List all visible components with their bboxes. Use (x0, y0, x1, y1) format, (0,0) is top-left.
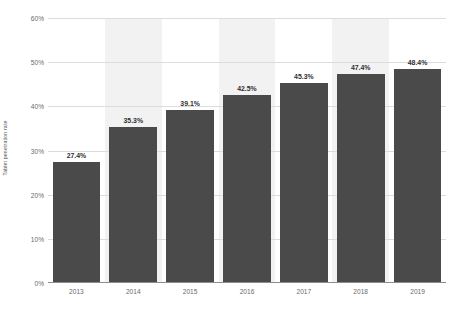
x-axis-tick-label: 2018 (332, 288, 389, 295)
bar[interactable] (109, 127, 157, 283)
bar-group: 48.4% (389, 18, 446, 283)
y-axis-tick-label: 20% (18, 191, 44, 198)
bar-value-label: 47.4% (332, 64, 389, 71)
bar-value-label: 42.5% (219, 85, 276, 92)
y-axis-tick-label: 10% (18, 235, 44, 242)
bar-group: 35.3% (105, 18, 162, 283)
x-axis-tick-label: 2014 (105, 288, 162, 295)
bar-group: 27.4% (48, 18, 105, 283)
x-axis-tick-label: 2019 (389, 288, 446, 295)
y-axis-tick-label: 40% (18, 103, 44, 110)
x-axis-line (48, 282, 446, 283)
bar[interactable] (280, 83, 328, 283)
bar[interactable] (166, 110, 214, 283)
bar-value-label: 39.1% (162, 100, 219, 107)
bar[interactable] (53, 162, 101, 283)
bar[interactable] (337, 74, 385, 283)
bar[interactable] (394, 69, 442, 283)
bar-group: 42.5% (219, 18, 276, 283)
x-axis-tick-label: 2015 (162, 288, 219, 295)
y-axis-title: Tablet penetration rate (2, 48, 16, 248)
bar-group: 45.3% (275, 18, 332, 283)
bar-value-label: 45.3% (275, 73, 332, 80)
y-axis-tick-label: 0% (18, 280, 44, 287)
y-axis-tick-label: 30% (18, 147, 44, 154)
y-axis-tick-label: 50% (18, 59, 44, 66)
bar-series: 27.4%35.3%39.1%42.5%45.3%47.4%48.4% (48, 18, 446, 283)
y-axis-tick-labels: 0%10%20%30%40%50%60% (18, 0, 44, 315)
bar-value-label: 27.4% (48, 152, 105, 159)
bar-chart: Tablet penetration rate 0%10%20%30%40%50… (0, 0, 454, 315)
x-axis-tick-label: 2016 (219, 288, 276, 295)
x-axis-tick-label: 2013 (48, 288, 105, 295)
x-axis-tick-label: 2017 (275, 288, 332, 295)
plot-area: 27.4%35.3%39.1%42.5%45.3%47.4%48.4% (48, 18, 446, 283)
bar-value-label: 48.4% (389, 59, 446, 66)
bar-group: 39.1% (162, 18, 219, 283)
bar[interactable] (223, 95, 271, 283)
bar-group: 47.4% (332, 18, 389, 283)
bar-value-label: 35.3% (105, 117, 162, 124)
x-axis-tick-labels: 2013201420152016201720182019 (48, 288, 446, 302)
y-axis-tick-label: 60% (18, 15, 44, 22)
